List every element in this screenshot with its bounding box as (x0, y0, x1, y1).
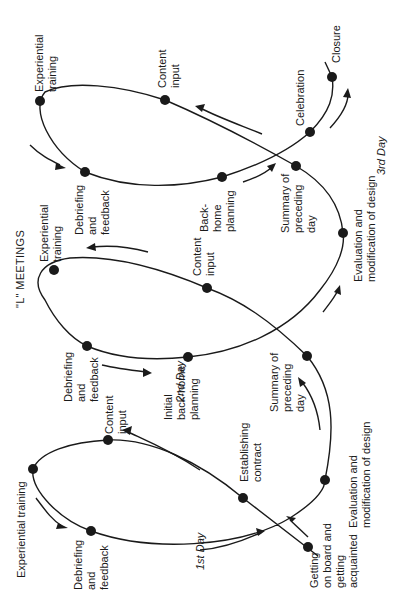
svg-text:preceding: preceding (292, 185, 304, 233)
svg-text:input: input (204, 252, 216, 276)
label-day1-experiential-training: Experiential training (15, 481, 27, 578)
svg-text:planning: planning (224, 190, 236, 232)
node-dot-day1-evaluation (320, 475, 330, 485)
svg-text:Content: Content (156, 49, 168, 88)
svg-text:Debriefing: Debriefing (72, 540, 84, 590)
node-dot-day1-content-input (103, 435, 113, 445)
svg-text:Debriefing: Debriefing (73, 185, 85, 235)
node-dot-day3-back-home (217, 172, 227, 182)
diagram-title: "L" MEETINGS (14, 230, 26, 308)
node-dot-day1-getting-on-board (303, 542, 313, 552)
svg-text:planning: planning (188, 378, 200, 420)
svg-text:getting: getting (334, 555, 346, 588)
svg-text:Experiential training: Experiential training (15, 481, 27, 578)
svg-text:feedback: feedback (98, 545, 110, 590)
label-day3-content-input: Content input (156, 49, 181, 88)
svg-text:Back-: Back- (198, 204, 210, 232)
svg-text:modification of design: modification of design (360, 422, 372, 528)
direction-arrow-icon (243, 163, 276, 182)
direction-arrow-icon (102, 365, 152, 377)
node-dot-day2-evaluation (338, 228, 348, 238)
svg-text:and: and (75, 384, 87, 402)
label-day3-summary: Summary of preceding day (279, 173, 317, 233)
node-dot-day1-establishing-contract (238, 493, 248, 503)
direction-arrow-icon (122, 426, 200, 470)
svg-text:feedback: feedback (88, 357, 100, 402)
svg-text:Closure: Closure (330, 25, 342, 63)
svg-text:input: input (169, 64, 181, 88)
svg-text:Getting: Getting (308, 553, 320, 588)
day-label-3: 3rd Day (375, 135, 387, 175)
label-day2-initial-back-home: Initial back-home planning (162, 366, 200, 420)
svg-text:Experiential: Experiential (33, 35, 45, 92)
label-day1-content-input: Content input (103, 395, 128, 434)
svg-text:and: and (85, 572, 97, 590)
node-dot-day3-debriefing (80, 167, 90, 177)
label-day3-back-home: Back- home planning (198, 190, 236, 232)
svg-text:training: training (46, 56, 58, 92)
day-label-1: 1st Day (194, 531, 206, 570)
node-dot-day3-summary (291, 161, 301, 171)
svg-text:Initial: Initial (162, 394, 174, 420)
label-day3-closure: Closure (330, 25, 342, 63)
svg-text:Experiential: Experiential (38, 205, 50, 262)
label-day1-evaluation: Evaluation and modification of design (347, 422, 372, 528)
svg-text:Evaluation and: Evaluation and (347, 455, 359, 528)
svg-text:Summary of: Summary of (268, 352, 280, 412)
label-day3-debriefing: Debriefing and feedback (73, 185, 111, 235)
node-dot-day1-debriefing (86, 526, 96, 536)
svg-text:modification of design: modification of design (365, 176, 377, 282)
label-day2-experiential-training: Experiential training (38, 205, 63, 262)
node-dot-day2-content-input (202, 283, 212, 293)
svg-text:preceding: preceding (281, 364, 293, 412)
node-dot-day2-debriefing (82, 341, 92, 351)
label-day2-evaluation: Evaluation and modification of design (352, 176, 377, 282)
svg-text:feedback: feedback (99, 190, 111, 235)
label-day3-celebration: Celebration (294, 70, 306, 126)
svg-text:Establishing: Establishing (238, 423, 250, 482)
l-meetings-diagram: "L" MEETINGS 1st Day 2nd Day 3rd Day Get… (0, 0, 407, 601)
node-dot-day3-experiential-training (35, 96, 45, 106)
svg-text:Content: Content (103, 395, 115, 434)
day1-loop-curve (33, 62, 344, 556)
label-day1-establishing-contract: Establishing contract (238, 423, 263, 482)
node-dot-day3-closure (327, 72, 337, 82)
node-dot-day1-experiential-training (28, 464, 38, 474)
svg-text:and: and (86, 217, 98, 235)
node-dot-day3-celebration (305, 127, 315, 137)
label-day2-debriefing: Debriefing and feedback (62, 352, 100, 402)
svg-text:acquainted: acquainted (347, 534, 359, 588)
svg-text:Celebration: Celebration (294, 70, 306, 126)
label-day2-content-input: Content input (191, 237, 216, 276)
node-dot-day3-content-input (160, 95, 170, 105)
label-day3-experiential-training: Experiential training (33, 35, 58, 92)
svg-text:on board and: on board and (321, 523, 333, 588)
direction-arrow-icon (330, 88, 351, 128)
node-dot-day2-experiential-training (49, 265, 59, 275)
node-dot-day2-initial-back-home (183, 352, 193, 362)
label-day1-getting-on-board: Getting on board and getting acquainted (308, 523, 359, 588)
node-dot-day2-summary (302, 351, 312, 361)
svg-text:contract: contract (251, 443, 263, 482)
svg-text:day: day (294, 394, 306, 412)
svg-text:training: training (51, 226, 63, 262)
label-day1-debriefing: Debriefing and feedback (72, 540, 110, 590)
svg-text:input: input (116, 410, 128, 434)
svg-text:Content: Content (191, 237, 203, 276)
svg-text:home: home (211, 204, 223, 232)
svg-text:day: day (305, 215, 317, 233)
direction-arrow-icon (323, 285, 341, 312)
direction-arrow-icon (86, 243, 148, 252)
svg-text:back-home: back-home (175, 366, 187, 420)
direction-arrow-icon (30, 145, 66, 170)
svg-text:Debriefing: Debriefing (62, 352, 74, 402)
svg-text:Evaluation and: Evaluation and (352, 209, 364, 282)
direction-arrow-icon (36, 498, 68, 529)
svg-text:Summary of: Summary of (279, 173, 291, 233)
